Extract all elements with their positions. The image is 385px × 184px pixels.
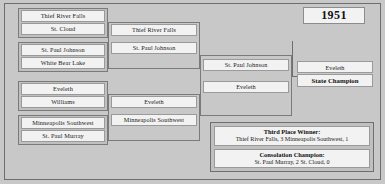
semifinal-winner-2[interactable]: St. Paul Johnson	[111, 42, 197, 54]
team-minneapolis-southwest[interactable]: Minneapolis Southwest	[21, 117, 105, 129]
team-st-cloud[interactable]: St. Cloud	[21, 23, 105, 35]
semifinal-winner-3[interactable]: Eveleth	[111, 96, 197, 108]
team-st-paul-johnson[interactable]: St. Paul Johnson	[21, 44, 105, 56]
state-champion-team[interactable]: Eveleth	[297, 61, 373, 73]
consolation-score: St. Paul Murray, 2 St. Cloud, 0	[254, 159, 329, 167]
team-st-paul-murray[interactable]: St. Paul Murray	[21, 130, 105, 142]
consolation-result: Consolation Champion: St. Paul Murray, 2…	[214, 149, 370, 168]
team-thief-river-falls[interactable]: Thief River Falls	[21, 10, 105, 22]
semifinal-winner-4[interactable]: Minneapolis Southwest	[111, 114, 197, 126]
tournament-year: 1951	[303, 7, 365, 24]
connector-final-vertical	[292, 41, 293, 77]
team-eveleth[interactable]: Eveleth	[21, 83, 105, 95]
tournament-bracket: 1951 Thief River Falls St. Cloud St. Pau…	[0, 0, 385, 184]
finalist-st-paul-johnson[interactable]: St. Paul Johnson	[203, 59, 289, 71]
finalist-eveleth[interactable]: Eveleth	[203, 81, 289, 93]
semifinal-winner-1[interactable]: Thief River Falls	[111, 24, 197, 36]
state-champion-label: State Champion	[297, 74, 373, 87]
third-place-score: Thief River Falls, 3 Minneapolis Southwe…	[236, 136, 349, 144]
team-williams[interactable]: Williams	[21, 96, 105, 108]
consolation-title: Consolation Champion:	[259, 151, 324, 159]
third-place-result: Third Place Winner: Thief River Falls, 3…	[214, 126, 370, 146]
third-place-title: Third Place Winner:	[264, 128, 321, 136]
team-white-bear-lake[interactable]: White Bear Lake	[21, 57, 105, 69]
